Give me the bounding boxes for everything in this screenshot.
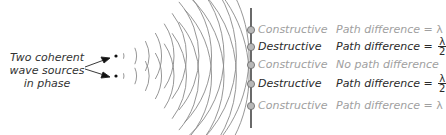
- interference-type-label: Constructive: [258, 24, 328, 36]
- source-label: Two coherent wave sources in phase: [4, 51, 90, 90]
- source-label-line: Two coherent: [4, 51, 90, 64]
- wavefront-arcs: [124, 0, 250, 135]
- source-label-line: wave sources: [4, 64, 90, 77]
- interference-type-label: Constructive: [258, 59, 328, 71]
- interference-type-label: Destructive: [258, 78, 321, 90]
- wave-source-1: [114, 54, 117, 57]
- screen-point-dot: [247, 80, 254, 87]
- path-difference-label: Path difference = λ: [336, 24, 443, 36]
- screen-point-dot: [247, 102, 254, 109]
- wave-source-2: [114, 74, 117, 77]
- path-difference-label: Path difference = λ: [336, 100, 443, 112]
- path-difference-label: Path difference = λ2: [336, 37, 446, 56]
- path-difference-label: Path difference = λ2: [336, 74, 446, 93]
- screen-point-dot: [247, 26, 254, 33]
- screen-point-dot: [247, 61, 254, 68]
- interference-type-label: Constructive: [258, 100, 328, 112]
- interference-type-label: Destructive: [258, 41, 321, 53]
- path-difference-label: No path difference: [336, 59, 439, 71]
- source-label-line: in phase: [4, 77, 90, 90]
- screen-point-dot: [247, 43, 254, 50]
